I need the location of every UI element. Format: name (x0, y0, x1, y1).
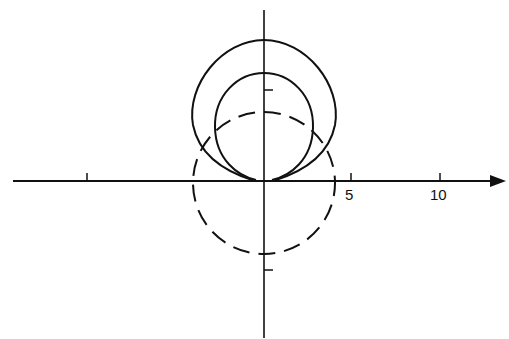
polar-diagram (0, 0, 509, 339)
x-tick-label-10: 10 (430, 187, 447, 202)
x-axis-arrow-icon (490, 175, 506, 187)
x-tick-label-5: 5 (345, 187, 353, 202)
